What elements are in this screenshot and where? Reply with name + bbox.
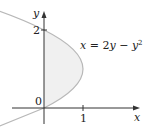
x-axis-label: x — [134, 111, 141, 124]
x-tick-label-1: 1 — [80, 112, 87, 125]
x-axis-arrow-icon — [133, 106, 140, 111]
y-tick-label-2: 2 — [33, 24, 40, 37]
y-axis-label: y — [32, 7, 40, 20]
y-axis-arrow-icon — [42, 11, 47, 18]
equation-label: x = 2y − y2 — [80, 39, 143, 52]
graph: y 2 0 1 x x = 2y − y2 — [0, 0, 146, 134]
origin-label: 0 — [35, 95, 42, 108]
